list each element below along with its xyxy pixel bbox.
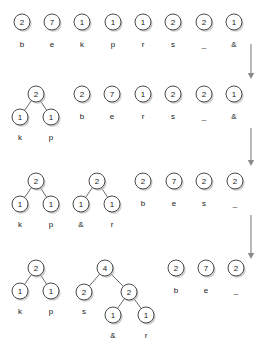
node-symbol-label: e (110, 112, 115, 121)
tree-node: 1p (43, 196, 61, 229)
node-weight-label: 7 (50, 18, 55, 27)
node-weight-label: 1 (110, 200, 115, 209)
tree-node: 7e (166, 173, 184, 208)
node-weight-label: 1 (232, 90, 237, 99)
node-symbol-label: e (204, 286, 209, 295)
tree-node: 2s (165, 14, 183, 49)
node-weight-label: 2 (82, 288, 87, 297)
node-symbol-label: s (82, 307, 86, 316)
tree-node: 7e (104, 86, 122, 121)
node-symbol-label: k (18, 133, 23, 142)
node-symbol-label: _ (201, 40, 207, 49)
node-weight-label: 1 (18, 287, 23, 296)
arrow-head-icon (248, 73, 254, 79)
tree-node: 1& (226, 86, 244, 121)
tree-node: 1p (105, 14, 123, 49)
tree-node: 1p (43, 109, 61, 142)
node-symbol-label: b (80, 112, 85, 121)
node-symbol-label: k (18, 220, 23, 229)
node-weight-label: 1 (232, 18, 237, 27)
node-weight-label: 2 (34, 90, 39, 99)
tree-node: 2s (165, 86, 183, 121)
node-weight-label: 2 (171, 90, 176, 99)
node-weight-label: 2 (234, 264, 239, 273)
tree-node: 2_ (196, 86, 214, 121)
tree-node: 7e (198, 260, 216, 295)
node-weight-label: 2 (20, 18, 25, 27)
tree-node: 2s (76, 284, 94, 316)
step-arrow-2 (248, 128, 254, 166)
step-arrow-1 (248, 44, 254, 79)
node-symbol-label: s (202, 199, 206, 208)
node-weight-label: 1 (18, 200, 23, 209)
step-arrow-3 (248, 215, 254, 259)
node-weight-label: 1 (49, 287, 54, 296)
node-symbol-label: _ (233, 286, 239, 295)
node-weight-label: 1 (80, 18, 85, 27)
tree-node: 1& (73, 196, 91, 229)
node-symbol-label: & (110, 331, 116, 340)
tree-node: 2b (14, 14, 32, 49)
tree-node: 1p (43, 283, 61, 316)
node-weight-label: 2 (34, 264, 39, 273)
tree-node: 1k (12, 109, 30, 142)
node-weight-label: 2 (171, 18, 176, 27)
node-symbol-label: r (142, 40, 145, 49)
tree-node: 2_ (227, 173, 245, 208)
huffman-step-1: 2b7e1k1p1r2s2_1& (14, 14, 244, 49)
tree-node: 1k (12, 196, 30, 229)
node-weight-label: 2 (80, 90, 85, 99)
node-symbol-label: s (171, 40, 175, 49)
node-weight-label: 7 (172, 177, 177, 186)
node-weight-label: 2 (141, 177, 146, 186)
node-symbol-label: b (20, 40, 25, 49)
node-symbol-label: b (141, 199, 146, 208)
node-weight-label: 1 (111, 18, 116, 27)
node-symbol-label: p (49, 307, 54, 316)
node-weight-label: 2 (34, 177, 39, 186)
huffman-step-2: 21k1p2b7e1r2s2_1& (12, 86, 244, 142)
tree-node: 1r (135, 86, 153, 121)
node-symbol-label: & (231, 40, 237, 49)
node-weight-label: 7 (110, 90, 115, 99)
node-weight-label: 1 (49, 200, 54, 209)
node-weight-label: 2 (127, 288, 132, 297)
tree-node: 2b (135, 173, 153, 208)
huffman-construction-diagram: 2b7e1k1p1r2s2_1&21k1p2b7e1r2s2_1&21k1p21… (0, 0, 270, 359)
tree-node: 4 (97, 260, 115, 278)
node-weight-label: 1 (79, 200, 84, 209)
node-symbol-label: _ (201, 112, 207, 121)
tree-node: 1& (226, 14, 244, 49)
node-weight-label: 1 (144, 311, 149, 320)
node-weight-label: 2 (233, 177, 238, 186)
tree-node: 1& (105, 307, 123, 340)
tree-node: 2s (196, 173, 214, 208)
tree-node: 1k (74, 14, 92, 49)
node-weight-label: 7 (204, 264, 209, 273)
node-weight-label: 2 (202, 90, 207, 99)
node-symbol-label: e (172, 199, 177, 208)
node-weight-label: 1 (141, 18, 146, 27)
node-symbol-label: r (111, 220, 114, 229)
node-weight-label: 2 (95, 177, 100, 186)
huffman-step-4: 21k1p42s21&1r2b7e2_ (12, 260, 246, 340)
tree-node: 2_ (196, 14, 214, 49)
node-weight-label: 2 (202, 177, 207, 186)
node-weight-label: 1 (111, 311, 116, 320)
node-weight-label: 4 (103, 264, 108, 273)
node-weight-label: 2 (202, 18, 207, 27)
node-symbol-label: p (49, 220, 54, 229)
node-symbol-label: & (78, 220, 84, 229)
node-symbol-label: b (174, 286, 179, 295)
tree-node: 1r (104, 196, 122, 229)
node-symbol-label: e (50, 40, 55, 49)
node-symbol-label: p (111, 40, 116, 49)
node-symbol-label: r (142, 112, 145, 121)
arrow-head-icon (248, 253, 254, 259)
tree-node: 1r (138, 307, 156, 340)
node-weight-label: 1 (141, 90, 146, 99)
tree-node: 1k (12, 283, 30, 316)
tree-node: 2b (74, 86, 92, 121)
node-weight-label: 2 (174, 264, 179, 273)
tree-node: 2_ (228, 260, 246, 295)
